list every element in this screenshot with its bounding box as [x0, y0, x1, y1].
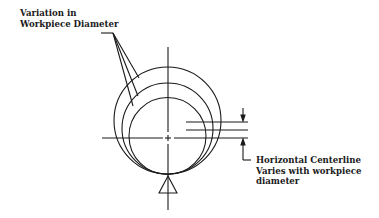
variation-label-line1: Variation in	[20, 8, 118, 19]
variation-label: Variation in Workpiece Diameter	[20, 8, 118, 29]
centerline-label-line3: diameter	[256, 176, 361, 187]
centerline-label: Horizontal Centerline Varies with workpi…	[256, 155, 361, 187]
variation-label-line2: Workpiece Diameter	[20, 19, 118, 30]
centerline-label-line2: Varies with workpiece	[256, 166, 361, 177]
arrowhead-up-icon	[241, 139, 245, 145]
arrowhead-down-icon	[241, 115, 245, 121]
centerline-label-line1: Horizontal Centerline	[256, 155, 361, 166]
